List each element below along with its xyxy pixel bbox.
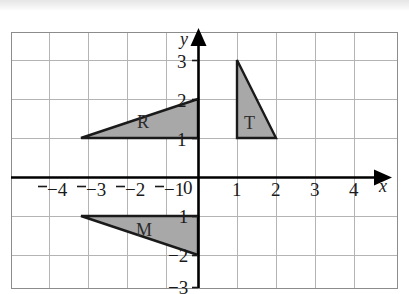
y-tick-label-3: 3 <box>177 52 187 71</box>
y-tick-label-2: 2 <box>177 91 187 110</box>
x-tick-label-neg3: −3 <box>86 180 106 199</box>
x-tick-label-1: 1 <box>232 180 242 199</box>
x-tick-label-neg1: −1 <box>164 180 184 199</box>
x-tick-label-neg4: −4 <box>47 180 67 199</box>
triangle-m-label: M <box>136 221 152 239</box>
grid-horizontal-lines <box>11 61 398 256</box>
x-tick-label-2: 2 <box>271 180 281 199</box>
y-axis-arrow-icon <box>191 28 207 46</box>
y-tick-label-1: 1 <box>177 130 187 149</box>
y-tick-label-neg1: −1 <box>168 207 188 226</box>
x-tick-label-3: 3 <box>310 180 320 199</box>
y-tick-label-neg3: −3 <box>168 278 188 294</box>
x-tick-label-neg2: −2 <box>125 180 145 199</box>
x-axis <box>11 170 392 186</box>
triangle-t-label: T <box>244 114 255 132</box>
origin-label: 0 <box>183 178 193 197</box>
coordinate-plane <box>0 0 409 294</box>
grid-vertical-lines <box>50 32 355 288</box>
coordinate-grid-figure: y x 0 −4 −3 −2 −1 1 2 3 4 3 2 1 −1 −2 −3… <box>0 0 409 294</box>
triangle-r-label: R <box>137 113 149 131</box>
y-axis-label: y <box>180 30 188 48</box>
x-tick-label-4: 4 <box>349 180 359 199</box>
y-tick-label-neg2: −2 <box>168 246 188 265</box>
grid-border <box>12 33 398 289</box>
x-axis-label: x <box>379 177 387 195</box>
